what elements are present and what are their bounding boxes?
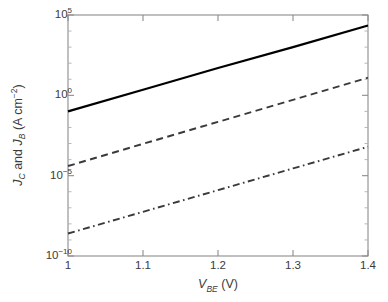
figure-container: 105 100 10−5 10−10 1 1.1 1.2 1.3 1.4 VBE… (0, 0, 388, 302)
x-tick-label-1.1: 1.1 (135, 260, 151, 272)
data-line-solid (68, 25, 368, 111)
x-tick-label-1.3: 1.3 (285, 260, 301, 272)
x-axis-label-sub: BE (206, 284, 217, 294)
x-axis-label-unit: (V) (221, 277, 238, 291)
y-axis-label-unit-close: ) (11, 84, 25, 88)
y-axis-minor-ticks (68, 31, 368, 240)
data-series-layer (68, 25, 368, 233)
y-axis-label-unit: (A cm (11, 98, 25, 133)
y-axis-label-sub1: C (17, 173, 27, 179)
y-tick-label-1e5: 105 (55, 9, 72, 21)
y-tick-label-1e0: 100 (55, 89, 72, 101)
y-tick-label-1e-5: 10−5 (50, 170, 72, 182)
y-axis-label-var1: J (11, 179, 25, 185)
x-tick-label-1.4: 1.4 (360, 260, 376, 272)
y-axis-label: JC and JB (A cm−2) (12, 84, 25, 185)
data-line-dashdot (68, 147, 368, 234)
data-line-dashed (68, 78, 368, 166)
y-axis-label-conj: and (11, 146, 25, 174)
y-axis-label-sub2: B (17, 134, 27, 140)
x-axis-label: VBE (V) (198, 278, 238, 291)
x-tick-label-1: 1 (65, 260, 71, 272)
y-axis-label-var2: J (11, 139, 25, 145)
y-axis-label-unit-exponent: −2 (9, 88, 19, 98)
x-tick-label-1.2: 1.2 (210, 260, 226, 272)
